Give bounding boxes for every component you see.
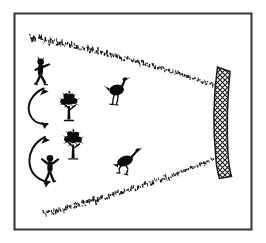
figure-canvas: Funnel drive hunting with net trap — [0, 0, 266, 243]
illustration-figure: Funnel drive hunting with net trap — [0, 0, 266, 243]
